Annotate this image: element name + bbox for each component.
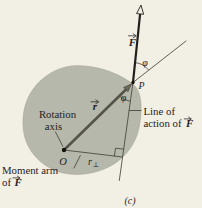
figure-caption: (c) — [124, 195, 136, 207]
point-p-dot — [131, 81, 134, 84]
moment-arm-symbol-subscript: ⊥ — [93, 161, 99, 168]
line-of-action-label-line2: action of — [144, 117, 182, 129]
f-vector-label: F — [128, 36, 137, 48]
figure-canvas: F r P O φ φ r ⊥ Rotation axis Line of ac… — [0, 0, 202, 208]
origin-label: O — [59, 156, 67, 167]
torque-figure: F r P O φ φ r ⊥ Rotation axis Line of ac… — [0, 0, 202, 208]
rotation-axis-label-line2: axis — [45, 120, 62, 132]
origin-dot — [62, 148, 66, 152]
point-p-label: P — [138, 80, 145, 91]
moment-arm-label-line2: of — [2, 176, 11, 188]
moment-arm-label-line1: Moment arm — [2, 164, 59, 176]
phi-lower-label: φ — [121, 92, 127, 103]
moment-arm-symbol-base: r — [88, 156, 92, 167]
phi-upper-label: φ — [142, 57, 148, 68]
rotation-axis-label-line1: Rotation — [39, 108, 77, 120]
line-of-action-label-line1: Line of — [144, 105, 176, 117]
